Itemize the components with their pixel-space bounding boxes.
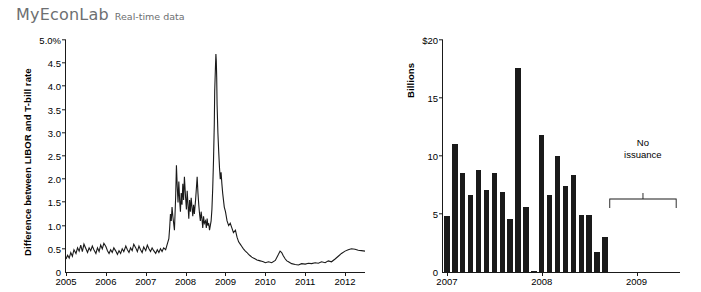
mylab-subtitle: Real-time data bbox=[115, 11, 185, 22]
abs-bar bbox=[539, 135, 544, 272]
abs-ytick-mark bbox=[439, 155, 443, 156]
abs-bar bbox=[586, 215, 591, 272]
abs-bar bbox=[444, 216, 449, 272]
no-issuance-line1: No bbox=[637, 137, 649, 148]
ted-ytick-mark bbox=[62, 86, 66, 87]
abs-bar bbox=[555, 156, 560, 272]
abs-bar bbox=[594, 252, 599, 272]
abs-bar bbox=[579, 215, 584, 272]
abs-bar bbox=[468, 195, 473, 272]
mylab-brand: MyEconLab bbox=[16, 5, 109, 24]
ted-xtick: 2012 bbox=[334, 276, 355, 287]
abs-xtick: 2007 bbox=[436, 276, 457, 287]
ted-xtick: 2008 bbox=[175, 276, 196, 287]
abs-xtick: 2009 bbox=[626, 276, 647, 287]
abs-bar bbox=[500, 192, 505, 272]
ted-ytick-mark bbox=[62, 178, 66, 179]
abs-bar bbox=[507, 219, 512, 272]
abs-ytick-mark bbox=[439, 213, 443, 214]
abs-bar bbox=[531, 271, 536, 272]
ted-ytick-mark bbox=[62, 62, 66, 63]
abs-bar bbox=[484, 190, 489, 272]
ted-ytick-mark bbox=[62, 248, 66, 249]
figure-page: MyEconLab Real-time data Difference betw… bbox=[0, 0, 701, 292]
ted-ytick: 0.5 bbox=[48, 243, 61, 254]
abs-xtick: 2008 bbox=[531, 276, 552, 287]
ted-ytick: 4.0 bbox=[48, 81, 61, 92]
ted-xtick: 2007 bbox=[135, 276, 156, 287]
ted-ytick: 2.0 bbox=[48, 174, 61, 185]
figure-abs-issuance: Billions No issuance $201510502007200820… bbox=[380, 24, 701, 292]
ted-ytick: 3.0 bbox=[48, 127, 61, 138]
ted-xtick-mark bbox=[106, 272, 107, 276]
ted-ytick-mark bbox=[62, 39, 66, 40]
ted-xtick: 2005 bbox=[55, 276, 76, 287]
ted-plot-area: 5.0%4.54.03.53.02.52.01.51.00.5020052006… bbox=[65, 40, 365, 273]
ted-ytick-mark bbox=[62, 155, 66, 156]
ted-line-series bbox=[66, 40, 365, 272]
abs-bar bbox=[515, 68, 520, 272]
abs-ytick: 10 bbox=[427, 151, 438, 162]
ted-xtick-mark bbox=[345, 272, 346, 276]
ted-ytick-mark bbox=[62, 109, 66, 110]
no-issuance-annotation: No issuance bbox=[624, 137, 662, 160]
no-issuance-bracket bbox=[609, 193, 677, 209]
abs-ytick-mark bbox=[439, 97, 443, 98]
abs-xtick-mark bbox=[447, 272, 448, 276]
ted-xtick-mark bbox=[66, 272, 67, 276]
ted-y-axis-label: Difference between LIBOR and T-bill rate bbox=[22, 68, 33, 256]
ted-xtick-mark bbox=[186, 272, 187, 276]
abs-bar bbox=[571, 175, 576, 272]
abs-ytick-mark bbox=[439, 39, 443, 40]
abs-bar bbox=[602, 237, 607, 272]
abs-bar bbox=[476, 170, 481, 272]
abs-y-axis-label: Billions bbox=[405, 63, 416, 98]
ted-xtick-mark bbox=[146, 272, 147, 276]
ted-ytick: 5.0% bbox=[39, 35, 61, 46]
abs-bar bbox=[563, 186, 568, 272]
abs-ytick: $20 bbox=[422, 35, 438, 46]
abs-plot-area: No issuance $20151050200720082009 bbox=[442, 40, 680, 273]
abs-bar bbox=[523, 207, 528, 272]
abs-ytick: 5 bbox=[433, 209, 438, 220]
figure-ted-spread: Difference between LIBOR and T-bill rate… bbox=[0, 24, 380, 292]
abs-xtick-mark bbox=[637, 272, 638, 276]
abs-bar bbox=[452, 144, 457, 272]
mylab-header: MyEconLab Real-time data bbox=[16, 5, 185, 24]
ted-ytick: 4.5 bbox=[48, 58, 61, 69]
ted-xtick: 2010 bbox=[255, 276, 276, 287]
abs-ytick: 15 bbox=[427, 93, 438, 104]
ted-xtick: 2006 bbox=[95, 276, 116, 287]
abs-bar bbox=[547, 195, 552, 272]
ted-ytick: 3.5 bbox=[48, 104, 61, 115]
ted-ytick-mark bbox=[62, 202, 66, 203]
ted-ytick: 1.0 bbox=[48, 220, 61, 231]
abs-bar bbox=[460, 173, 465, 272]
ted-xtick-mark bbox=[225, 272, 226, 276]
abs-xtick-mark bbox=[542, 272, 543, 276]
ted-xtick-mark bbox=[305, 272, 306, 276]
ted-spread-line bbox=[66, 54, 365, 265]
abs-bar bbox=[492, 173, 497, 272]
ted-ytick-mark bbox=[62, 225, 66, 226]
ted-xtick-mark bbox=[265, 272, 266, 276]
ted-xtick: 2009 bbox=[215, 276, 236, 287]
ted-xtick: 2011 bbox=[295, 276, 315, 287]
ted-ytick: 1.5 bbox=[48, 197, 61, 208]
ted-ytick: 2.5 bbox=[48, 151, 61, 162]
no-issuance-line2: issuance bbox=[624, 149, 662, 160]
ted-ytick-mark bbox=[62, 132, 66, 133]
